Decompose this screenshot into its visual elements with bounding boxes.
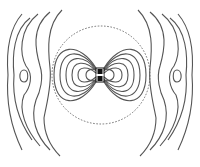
field-lines-figure — [0, 0, 200, 167]
inner-lobes-right — [104, 49, 146, 100]
dipole-antenna-icon — [96, 68, 104, 82]
inner-lobes-left — [54, 49, 96, 100]
outer-loops-left — [8, 10, 62, 156]
dipole-field-diagram — [0, 0, 200, 167]
outer-loops-right — [138, 10, 192, 156]
